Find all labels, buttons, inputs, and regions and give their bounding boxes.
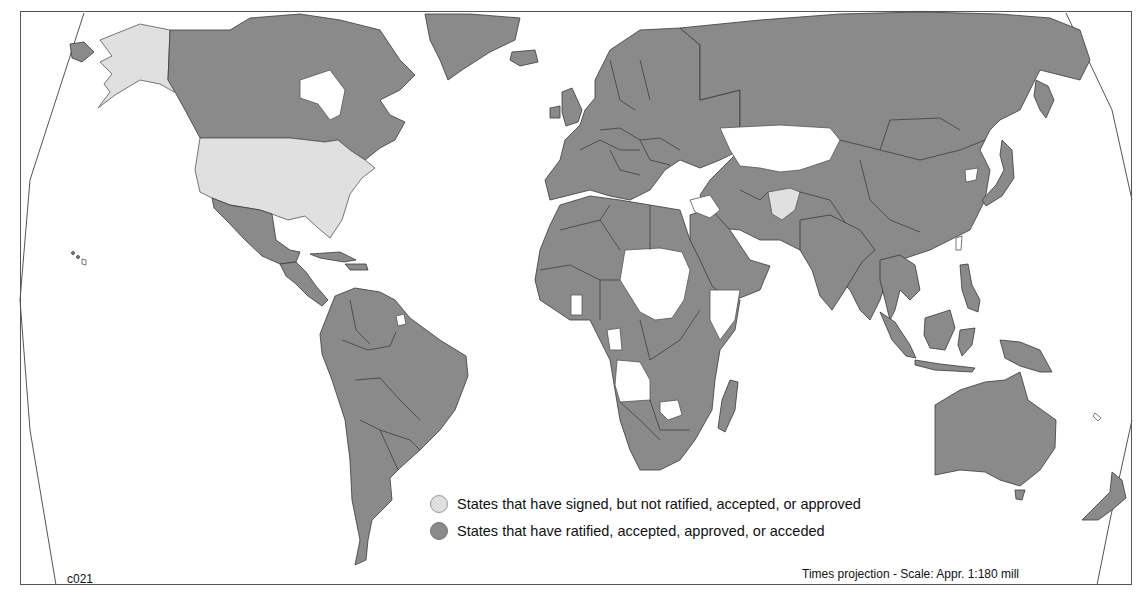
region-usa	[195, 138, 375, 238]
region-hawaii-dot-1	[72, 252, 75, 255]
region-australia	[935, 372, 1056, 486]
region-ghana	[571, 295, 582, 315]
region-indonesia-sumatra	[880, 312, 916, 358]
region-north-korea	[965, 168, 978, 182]
projection-edge-left	[20, 13, 84, 585]
region-java	[915, 360, 975, 372]
region-uk	[562, 88, 582, 126]
region-borneo	[924, 310, 955, 350]
region-hispaniola	[345, 264, 368, 270]
legend-label-ratified: States that have ratified, accepted, app…	[457, 523, 825, 539]
region-iceland	[510, 50, 538, 66]
region-central-america	[280, 262, 328, 306]
region-philippines	[960, 264, 980, 312]
region-new-caledonia	[1093, 413, 1101, 421]
region-french-guiana	[396, 314, 406, 326]
region-alaska	[98, 24, 180, 108]
region-kamchatka	[1034, 80, 1054, 118]
signed-swatch-icon	[430, 495, 448, 513]
region-hawaii-dot-2	[77, 256, 80, 259]
legend-label-signed: States that have signed, but not ratifie…	[457, 496, 861, 512]
region-taiwan	[956, 236, 962, 250]
map-code: c021	[67, 572, 93, 586]
region-hawaii-big-island	[82, 259, 86, 265]
legend: States that have signed, but not ratifie…	[430, 490, 861, 544]
region-gabon-congo	[607, 328, 622, 350]
legend-item-ratified: States that have ratified, accepted, app…	[430, 517, 861, 544]
region-chukotka-west	[70, 42, 94, 62]
region-indochina	[880, 255, 920, 320]
region-new-guinea	[1000, 340, 1052, 372]
projection-note: Times projection - Scale: Appr. 1:180 mi…	[802, 567, 1019, 581]
region-new-zealand	[1082, 472, 1126, 520]
region-cuba	[310, 252, 356, 262]
region-tasmania	[1015, 490, 1025, 500]
region-madagascar	[718, 380, 738, 432]
region-greenland	[425, 14, 520, 80]
ratified-swatch-icon	[430, 522, 448, 540]
region-sulawesi	[958, 328, 975, 356]
region-ireland	[550, 106, 560, 118]
legend-item-signed: States that have signed, but not ratifie…	[430, 490, 861, 517]
